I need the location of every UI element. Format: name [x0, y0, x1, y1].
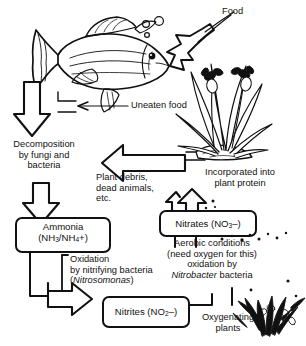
ammonia-name: Ammonia [16, 221, 110, 232]
oxygenating-line-2: plants [178, 323, 278, 334]
oxidation-line-2: by nitrifying bacteria [70, 265, 153, 276]
ammonia-formula-suffix: +) [79, 232, 88, 243]
fish-illustration [33, 17, 169, 112]
nitrogen-cycle-diagram: Food Uneaten food Decomposition by fungi… [0, 0, 306, 346]
nitrosomonas-close: ) [130, 275, 133, 285]
oxygenating-line-1: Oxygenating [178, 312, 278, 323]
food-arrow [167, 12, 234, 70]
ammonia-formula-prefix: (NH [38, 232, 55, 243]
nitrites-suffix: –) [169, 306, 178, 317]
ammonia-box-text: Ammonia (NH3/NH4+) [16, 221, 110, 245]
fish-to-uneaten-connector [58, 92, 76, 112]
decomposition-line-3: bacteria [0, 160, 88, 171]
bubbles-illustration [143, 17, 164, 38]
incorporated-line-1: Incorporated into [178, 167, 302, 178]
label-incorporated-into-plant-protein: Incorporated into plant protein [178, 167, 302, 188]
incorporated-line-2: plant protein [178, 178, 302, 189]
nitrobacter-tail: bacteria [217, 270, 253, 280]
nitrobacter-genus: Nitrobacter [171, 270, 216, 280]
label-uneaten-food: Uneaten food [131, 100, 187, 111]
oxidation-line-3: (Nitrosomonas) [70, 275, 153, 286]
label-food: Food [222, 6, 243, 17]
label-aerobic-conditions: Aerobic conditions (need oxygen for this… [152, 238, 272, 280]
nitrites-box-text: Nitrites (NO2–) [103, 306, 189, 319]
decomposition-line-2: by fungi and [0, 150, 88, 161]
nitrosomonas-genus: Nitrosomonas [73, 275, 130, 285]
aerobic-line-1: Aerobic conditions [152, 238, 272, 249]
decomposition-line-1: Decomposition [0, 139, 88, 150]
nitrates-to-plant-arrow [166, 189, 206, 211]
nitrates-suffix: –) [232, 218, 241, 229]
ammonia-formula: (NH3/NH4+) [16, 232, 110, 245]
plant-debris-line-3: etc. [96, 193, 154, 204]
nitrates-box-text: Nitrates (NO3–) [160, 218, 256, 231]
label-decomposition: Decomposition by fungi and bacteria [0, 139, 88, 171]
ammonia-formula-mid: /NH [59, 232, 76, 243]
aerobic-line-3: oxidation by [152, 259, 272, 270]
oxidation-line-1: Oxidation [70, 254, 153, 265]
plant-debris-line-1: Plant debris, [96, 172, 154, 183]
marsh-plant-illustration [176, 64, 272, 160]
label-oxygenating-plants: Oxygenating plants [178, 312, 278, 333]
nitrates-prefix: Nitrates (NO [175, 218, 228, 229]
label-plant-debris: Plant debris, dead animals, etc. [96, 172, 154, 204]
decomposition-inflow-arrow [14, 82, 50, 136]
label-oxidation-nitrosomonas: Oxidation by nitrifying bacteria (Nitros… [70, 254, 153, 286]
nitrites-prefix: Nitrites (NO [115, 306, 165, 317]
aerobic-line-4: Nitrobacter bacteria [152, 270, 272, 281]
plant-debris-line-2: dead animals, [96, 183, 154, 194]
oxidation-bracket [62, 255, 68, 291]
uneaten-food-arrow [78, 102, 128, 110]
aerobic-line-2: (need oxygen for this) [152, 249, 272, 260]
